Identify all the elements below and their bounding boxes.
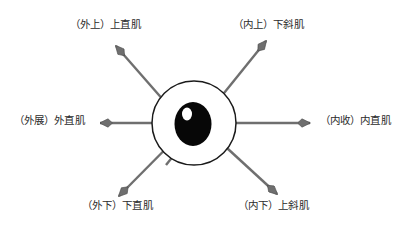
eyeball-pupil — [175, 102, 212, 146]
label-medial-rectus: （内收）内直肌 — [320, 115, 391, 127]
eye-muscle-diagram: （外上）上直肌 （内上）下斜肌 （外展）外直肌 （内收）内直肌 （外下）下直肌 … — [0, 0, 411, 228]
label-superior-rectus: （外上）上直肌 — [70, 19, 141, 31]
diagram-canvas — [0, 0, 411, 228]
label-lateral-rectus: （外展）外直肌 — [14, 115, 85, 127]
label-inferior-oblique: （内上）下斜肌 — [233, 19, 304, 31]
eyeball-highlight — [182, 108, 192, 121]
eyeball — [152, 81, 236, 165]
label-inferior-rectus: （外下）下直肌 — [82, 200, 153, 212]
label-superior-oblique: （内下）上斜肌 — [238, 200, 309, 212]
